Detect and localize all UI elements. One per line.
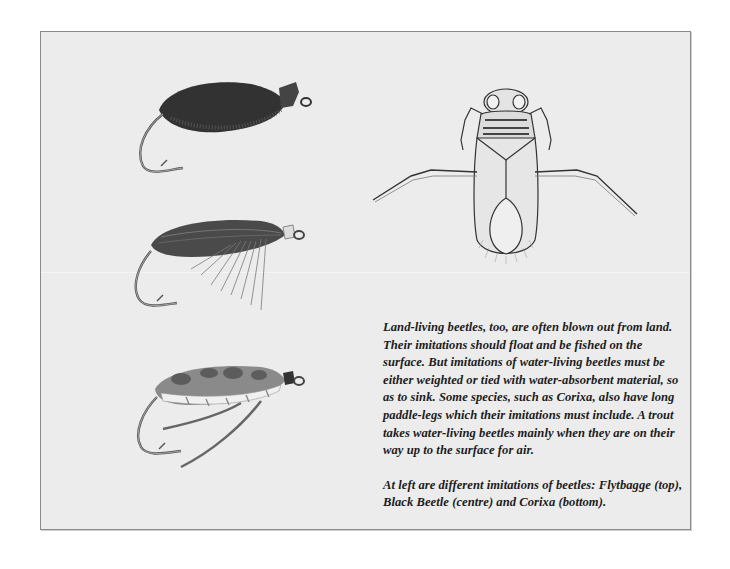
corixa-insect-illustration [371, 80, 641, 265]
caption-text-block: Land-living beetles, too, are often blow… [383, 319, 683, 512]
caption-paragraph-1: Land-living beetles, too, are often blow… [383, 319, 683, 460]
page-frame: Land-living beetles, too, are often blow… [40, 31, 691, 530]
corixa-fly-illustration [121, 357, 316, 487]
black-beetle-fly-illustration [121, 215, 316, 335]
caption-paragraph-2: At left are different imitations of beet… [383, 477, 683, 512]
flytbagge-fly-illustration [121, 70, 316, 180]
